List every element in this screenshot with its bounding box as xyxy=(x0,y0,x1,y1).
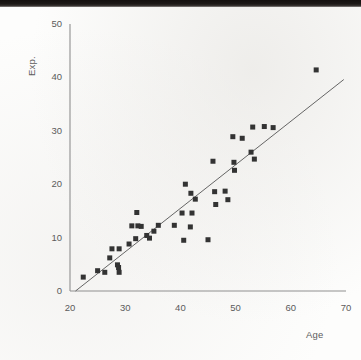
y-tick-label: 50 xyxy=(40,18,62,29)
data-point xyxy=(133,236,138,241)
trendline-segment xyxy=(76,80,344,291)
trendline xyxy=(76,80,344,291)
x-tick-label: 60 xyxy=(279,302,303,313)
data-point xyxy=(212,189,217,194)
data-point xyxy=(271,125,276,130)
data-point xyxy=(147,236,152,241)
x-axis-label: Age xyxy=(306,329,324,340)
data-point xyxy=(188,191,193,196)
data-point xyxy=(127,242,132,247)
data-point xyxy=(231,160,236,165)
y-tick-label: 30 xyxy=(40,125,62,136)
data-point xyxy=(156,223,161,228)
data-point xyxy=(116,265,121,270)
data-point xyxy=(225,197,230,202)
x-tick-label: 30 xyxy=(113,302,137,313)
data-point xyxy=(262,124,267,129)
data-point xyxy=(139,224,144,229)
data-point xyxy=(188,224,193,229)
data-point xyxy=(206,237,211,242)
x-tick-label: 20 xyxy=(58,302,82,313)
data-point xyxy=(232,168,237,173)
data-point xyxy=(189,211,194,216)
data-point xyxy=(102,270,107,275)
data-point xyxy=(250,125,255,130)
data-point xyxy=(117,246,122,251)
data-point xyxy=(81,275,86,280)
data-point xyxy=(151,229,156,234)
x-tick-label: 70 xyxy=(334,302,358,313)
data-point xyxy=(129,223,134,228)
data-point xyxy=(183,182,188,187)
data-point xyxy=(240,136,245,141)
data-point xyxy=(249,150,254,155)
scanned-chart-page: Exp. Age 01020304050 203040506070 xyxy=(0,0,361,360)
y-tick-label: 20 xyxy=(40,178,62,189)
x-tick-label: 50 xyxy=(224,302,248,313)
data-point xyxy=(252,157,257,162)
data-point xyxy=(213,202,218,207)
y-tick-label: 40 xyxy=(40,71,62,82)
data-point xyxy=(117,270,122,275)
data-point xyxy=(223,189,228,194)
data-point xyxy=(210,159,215,164)
data-point xyxy=(107,255,112,260)
data-point xyxy=(181,238,186,243)
data-point xyxy=(109,246,114,251)
data-point xyxy=(314,67,319,72)
data-points xyxy=(81,67,319,279)
data-point xyxy=(134,210,139,215)
y-tick-label: 0 xyxy=(40,285,62,296)
data-point xyxy=(172,223,177,228)
data-point xyxy=(230,134,235,139)
y-axis-label: Exp. xyxy=(26,56,37,76)
data-point xyxy=(180,211,185,216)
data-point xyxy=(95,268,100,273)
data-point xyxy=(193,197,198,202)
y-tick-label: 10 xyxy=(40,232,62,243)
x-tick-label: 40 xyxy=(168,302,192,313)
